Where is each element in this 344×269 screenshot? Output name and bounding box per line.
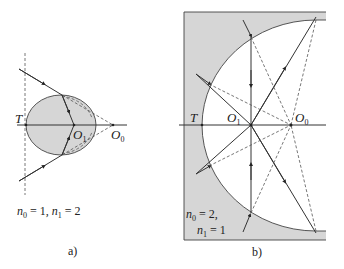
ray-lower-arrow <box>19 166 44 181</box>
condition-n0-b: n0 = 2, <box>186 207 218 223</box>
ray-to-lower-right-arrow <box>251 125 285 182</box>
label-T-b: T <box>190 110 198 125</box>
dashed-O0-upper-left <box>209 84 291 125</box>
point-O1-b <box>250 124 253 127</box>
label-O0: O0 <box>111 127 124 144</box>
point-T <box>25 124 28 127</box>
label-T: T <box>15 111 23 126</box>
point-O0-b <box>290 124 293 127</box>
point-O1 <box>73 124 76 127</box>
caption-b: b) <box>252 245 262 259</box>
label-O1-b: O1 <box>227 110 240 127</box>
panel-a: T O1 O0 n0 = 1, n1 = 2 a) <box>15 53 127 258</box>
caption-a: a) <box>68 244 77 258</box>
dashed-O0-bottom-vertical <box>251 125 291 213</box>
ray-upper-arrow <box>19 69 44 84</box>
refractive-index-condition: n0 = 1, n1 = 2 <box>17 204 81 220</box>
point-O0 <box>112 124 115 127</box>
condition-n1-b: n1 = 1 <box>197 223 226 239</box>
ray-to-upper-right-arrow <box>251 68 285 125</box>
dashed-O0-lower-left <box>209 125 291 166</box>
dashed-O0-lower-right <box>291 125 316 231</box>
panel-b: T O1 O0 n0 = 2, n1 = 1 b) <box>179 12 326 259</box>
optics-figure: T O1 O0 n0 = 1, n1 = 2 a) <box>0 0 344 269</box>
label-O0-b: O0 <box>295 110 308 127</box>
point-T-b <box>201 124 204 127</box>
dashed-O0-top-vertical <box>251 37 291 125</box>
